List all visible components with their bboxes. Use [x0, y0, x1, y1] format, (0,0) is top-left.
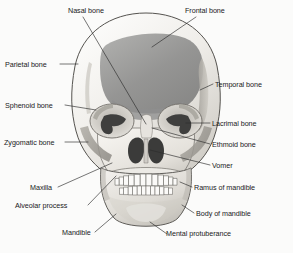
label-nasal-bone: Nasal bone	[68, 6, 104, 15]
label-mandible: Mandible	[62, 228, 91, 237]
upper-teeth	[115, 174, 177, 186]
label-body-of-mandible: Body of mandible	[196, 209, 251, 218]
skull-illustration	[72, 13, 221, 226]
vomer-septum	[144, 139, 148, 163]
label-vomer: Vomer	[212, 161, 233, 170]
label-frontal-bone: Frontal bone	[185, 6, 225, 15]
label-ethmoid-bone: Ethmoid bone	[212, 140, 256, 149]
lower-teeth	[120, 186, 173, 195]
label-maxilla: Maxilla	[30, 183, 52, 192]
label-sphenoid-bone: Sphenoid bone	[5, 101, 53, 110]
label-alveolar-process: Alveolar process	[15, 201, 67, 210]
label-parietal-bone: Parietal bone	[5, 60, 47, 69]
label-temporal-bone: Temporal bone	[215, 80, 262, 89]
leader-mandible	[95, 214, 116, 232]
label-ramus-of-mandible: Ramus of mandible	[194, 183, 255, 192]
label-lacrimal-bone: Lacrimal bone	[212, 119, 257, 128]
label-mental-protuberance: Mental protuberance	[166, 229, 231, 238]
label-zygomatic-bone: Zygomatic bone	[4, 138, 54, 147]
frontal-bone-area	[100, 34, 203, 114]
